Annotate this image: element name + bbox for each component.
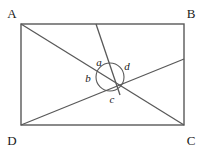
- vertex-label-d: D: [7, 133, 16, 148]
- vertex-label-b: B: [187, 6, 196, 21]
- angle-label-d: d: [124, 60, 130, 72]
- segment-d-right-edge: [21, 59, 184, 125]
- geometry-figure: A B C D a b c d: [0, 0, 205, 154]
- angle-label-b: b: [85, 72, 91, 84]
- angle-label-a: a: [96, 56, 102, 68]
- angle-label-c: c: [110, 93, 115, 105]
- segment-a-c: [21, 24, 184, 125]
- vertex-label-c: C: [187, 133, 196, 148]
- geometry-svg: A B C D a b c d: [0, 0, 205, 154]
- vertex-label-a: A: [7, 6, 17, 21]
